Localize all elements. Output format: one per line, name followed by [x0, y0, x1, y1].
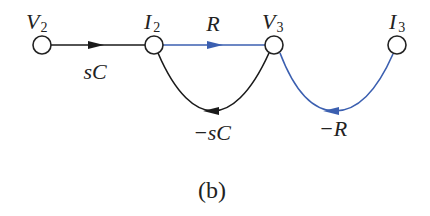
node-v3 [265, 36, 283, 54]
node-i3 [388, 36, 406, 54]
signal-flow-graph: V2 I2 V3 I3 sC R −sC −R (b) [0, 0, 430, 216]
arrow-right-icon [207, 41, 223, 49]
node-label-i3: I3 [388, 9, 405, 35]
figure-caption: (b) [198, 177, 226, 203]
gain-label-r: R [205, 11, 220, 36]
arrow-left-icon [203, 107, 219, 115]
edge-v2-i2 [51, 41, 145, 49]
node-label-v3: V3 [262, 9, 283, 35]
gain-label-neg-sc: −sC [193, 120, 231, 145]
arrow-right-icon [88, 41, 104, 49]
edge-v3-i2 [158, 53, 269, 115]
edge-i3-v3 [280, 53, 393, 115]
gain-label-neg-r: −R [319, 116, 348, 141]
node-i2 [145, 36, 163, 54]
edge-i2-v3 [163, 41, 265, 49]
node-label-i2: I2 [143, 9, 160, 35]
node-label-v2: V2 [26, 9, 47, 35]
node-v2 [33, 36, 51, 54]
arrow-left-icon [323, 107, 339, 115]
gain-label-sc: sC [83, 59, 107, 84]
